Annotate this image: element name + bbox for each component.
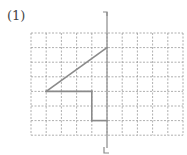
symmetry-grid-diagram: [0, 0, 187, 155]
top-bracket-mark: [103, 12, 107, 16]
